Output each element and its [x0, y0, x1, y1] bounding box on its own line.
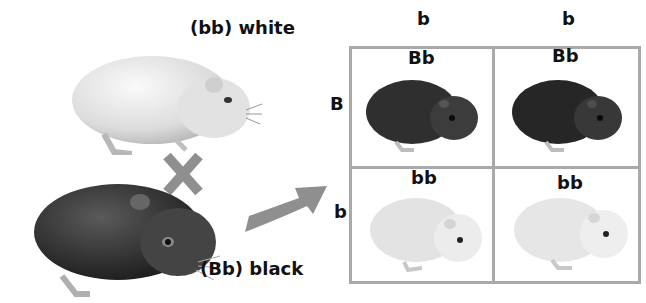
parent-black-label: (Bb) black [200, 258, 303, 279]
parent-black-hamster [28, 172, 233, 300]
black-hamster-image [28, 172, 233, 300]
offspring-black-hamster-r1c1 [362, 72, 480, 152]
column-allele-2: b [562, 8, 575, 29]
offspring-black-hamster-r1c2 [508, 72, 626, 152]
grid-border-top [349, 46, 641, 49]
cell-genotype-r2c1: bb [411, 167, 437, 188]
row-allele-1: B [330, 93, 344, 114]
grid-border-right [638, 46, 641, 284]
offspring-white-hamster-r2c1 [368, 190, 486, 272]
grid-divider-horizontal [349, 166, 641, 169]
offspring-white-hamster-r2c2 [512, 190, 630, 272]
parent-white-hamster [64, 30, 264, 155]
grid-border-left [349, 46, 352, 284]
parent-white-label: (bb) white [190, 17, 295, 38]
grid-border-bottom [349, 281, 641, 284]
column-allele-1: b [417, 8, 430, 29]
curved-arrow-icon [243, 184, 329, 234]
row-allele-2: b [334, 201, 347, 222]
cell-genotype-r1c2: Bb [552, 45, 579, 66]
grid-divider-vertical [492, 46, 495, 284]
white-hamster-image [64, 30, 264, 155]
cell-genotype-r1c1: Bb [408, 47, 435, 68]
